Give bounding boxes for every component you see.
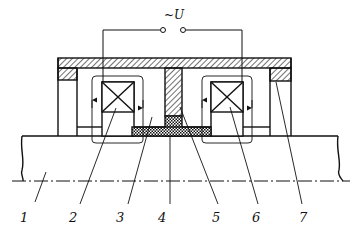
terminal-right xyxy=(181,28,186,33)
label-3: 3 xyxy=(116,210,124,225)
supply-label: ~U xyxy=(164,8,185,22)
right-coil xyxy=(211,82,270,136)
label-1: 1 xyxy=(20,210,28,225)
left-coil xyxy=(77,82,134,136)
label-6: 6 xyxy=(252,210,260,225)
center-pole xyxy=(132,68,211,136)
label-5: 5 xyxy=(212,210,220,225)
terminal-left xyxy=(161,28,166,33)
device-cross-section: ~U xyxy=(0,0,357,233)
diagram-canvas: ~U xyxy=(0,0,357,233)
shaft xyxy=(21,136,343,181)
label-2: 2 xyxy=(68,210,77,225)
label-7: 7 xyxy=(299,210,308,225)
label-4: 4 xyxy=(157,210,166,225)
